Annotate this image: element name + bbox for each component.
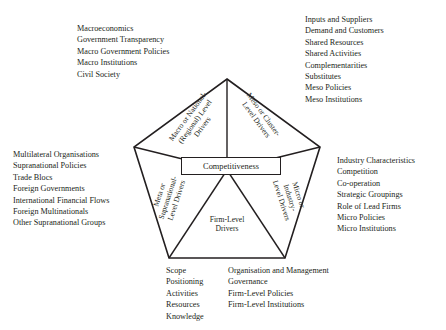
sector-label-firm-line-1: Firm-Level xyxy=(185,215,269,224)
list-item: Inputs and Suppliers xyxy=(305,14,384,25)
competitiveness-label: Competitiveness xyxy=(203,162,259,171)
list-item: Civil Society xyxy=(77,69,169,80)
list-item: Shared Resources xyxy=(305,37,384,48)
list-item: Substitutes xyxy=(305,71,384,82)
list-item: Foreign Governments xyxy=(13,183,109,194)
list-item: Supranational Policies xyxy=(13,160,109,171)
list-item: Trade Blocs xyxy=(13,172,109,183)
competitiveness-box: Competitiveness xyxy=(181,157,281,175)
list-firm-level-left: Scope Positioning Activities Resources K… xyxy=(166,265,204,322)
list-item: Activities xyxy=(166,288,204,299)
list-item: Foreign Multinationals xyxy=(13,206,109,217)
list-item: Organisation and Management xyxy=(228,265,329,276)
list-item: Shared Activities xyxy=(305,48,384,59)
list-item: Positioning xyxy=(166,276,204,287)
list-item: Micro Institutions xyxy=(337,223,415,234)
list-item: Macro Government Policies xyxy=(77,46,169,57)
list-item: Meso Institutions xyxy=(305,94,384,105)
list-item: Micro Policies xyxy=(337,212,415,223)
sector-label-firm-line-2: Drivers xyxy=(185,224,269,233)
list-item: Firm-Level Policies xyxy=(228,288,329,299)
list-micro-drivers: Industry Characteristics Competition Co-… xyxy=(337,155,415,235)
list-item: Macro Institutions xyxy=(77,57,169,68)
list-item: Role of Lead Firms xyxy=(337,201,415,212)
sector-label-firm: Firm-Level Drivers xyxy=(185,215,269,233)
list-item: Industry Characteristics xyxy=(337,155,415,166)
diagram-canvas: Macro or National- (Regional) Level Driv… xyxy=(0,0,446,330)
list-item: Other Supranational Groups xyxy=(13,217,109,228)
list-meta-drivers: Multilateral Organisations Supranational… xyxy=(13,149,109,229)
list-item: Competition xyxy=(337,166,415,177)
list-item: Firm-Level Institutions xyxy=(228,299,329,310)
list-macro-drivers: Macroeconomics Government Transparency M… xyxy=(77,23,169,80)
list-item: Government Transparency xyxy=(77,34,169,45)
list-meso-drivers: Inputs and Suppliers Demand and Customer… xyxy=(305,14,384,105)
list-firm-level-right: Organisation and Management Governance F… xyxy=(228,265,329,311)
list-item: Demand and Customers xyxy=(305,25,384,36)
list-item: Co-operation xyxy=(337,178,415,189)
list-item: International Financial Flows xyxy=(13,195,109,206)
list-item: Resources xyxy=(166,299,204,310)
list-item: Governance xyxy=(228,276,329,287)
list-item: Macroeconomics xyxy=(77,23,169,34)
list-item: Knowledge xyxy=(166,311,204,322)
list-item: Multilateral Organisations xyxy=(13,149,109,160)
list-item: Meso Policies xyxy=(305,82,384,93)
list-item: Complementarities xyxy=(305,60,384,71)
list-item: Scope xyxy=(166,265,204,276)
list-item: Strategic Groupings xyxy=(337,189,415,200)
